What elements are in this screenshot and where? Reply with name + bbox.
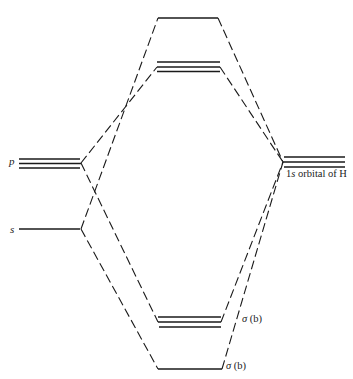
p-label: p [9, 155, 15, 167]
sigma-b-paren: (b) [231, 360, 246, 371]
p-orbital-levels [19, 159, 81, 168]
sigma-b-lower-label: σ (b) [226, 360, 246, 371]
h-1s-levels [283, 157, 345, 167]
sigma-b-paren: (b) [247, 313, 262, 324]
mo-diagram [0, 0, 353, 379]
sigma-b-upper-label: σ (b) [242, 313, 262, 324]
h-1s-label: 1s orbital of H [286, 168, 347, 179]
bonding-t2-levels [158, 317, 221, 327]
antibonding-t2-levels [157, 62, 220, 72]
s-label: s [10, 223, 14, 235]
h-1s-label-text: orbital of H [295, 168, 347, 179]
